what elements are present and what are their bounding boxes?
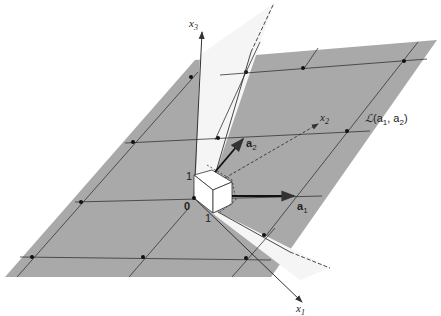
x1-label: x1 <box>295 302 305 316</box>
origin-label: 0 <box>184 200 190 212</box>
span-diagram: x3 x2 x1 a2 a1 0 1 1 ℒ(a1, a2) <box>0 0 441 316</box>
x1-unit-label: 1 <box>205 212 211 224</box>
x3-unit-label: 1 <box>186 170 192 182</box>
x3-label: x3 <box>188 17 198 32</box>
